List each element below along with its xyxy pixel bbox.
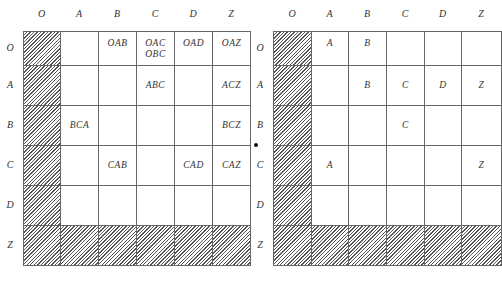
hatched-cell [273,31,312,66]
table-cell [311,65,349,106]
separator-dot [254,143,258,147]
table-cell [348,145,387,186]
table-cell [98,185,137,226]
row-header: O [4,42,16,53]
hatched-cell [23,185,61,226]
table-cell [348,105,387,146]
table-cell: CAD [174,145,213,186]
hatched-cell [348,225,387,266]
hatched-cell [273,145,312,186]
table-cell: OACOBC [136,31,175,66]
table-cell: CAZ [212,145,251,186]
row-header: A [4,79,16,90]
row-header: B [4,119,16,130]
hatched-cell [273,105,312,146]
table-cell: OAZ [212,31,251,66]
column-header: C [386,8,424,19]
table-cell: A [311,31,349,66]
column-header: O [273,8,311,19]
table-cell [386,145,425,186]
row-header: D [254,199,266,210]
table-cell [311,185,349,226]
table-cell [174,105,213,146]
table-cell [212,185,251,226]
table-cell: B [348,31,387,66]
row-header: D [4,199,16,210]
table-cell: Z [461,145,502,186]
table-cell [174,185,213,226]
table-cell: ACZ [212,65,251,106]
table-cell [60,185,99,226]
table-cell [98,105,137,146]
hatched-cell [273,225,312,266]
table-cell [136,105,175,146]
table-cell: C [386,105,425,146]
column-header: A [311,8,348,19]
table-cell [348,185,387,226]
table-cell [174,65,213,106]
table-cell [98,65,137,106]
table-cell [311,105,349,146]
row-header: Z [254,239,266,250]
table-cell: CAB [98,145,137,186]
hatched-cell [212,225,251,266]
hatched-cell [136,225,175,266]
table-cell [461,31,502,66]
table-cell: BCZ [212,105,251,146]
column-header: O [23,8,60,19]
column-header: C [136,8,174,19]
table-cell [136,145,175,186]
table-cell [136,185,175,226]
column-header: B [98,8,136,19]
hatched-cell [273,65,312,106]
row-header: C [254,159,266,170]
column-header: D [424,8,461,19]
table-cell: BCA [60,105,99,146]
table-cell: B [348,65,387,106]
row-header: B [254,119,266,130]
column-header: Z [461,8,501,19]
hatched-cell [273,185,312,226]
row-header: O [254,42,266,53]
hatched-cell [23,31,61,66]
hatched-cell [23,65,61,106]
table-cell: A [311,145,349,186]
table-cell [386,185,425,226]
table-cell [461,185,502,226]
table-cell [424,145,462,186]
table-cell: OAB [98,31,137,66]
table-cell: C [386,65,425,106]
table-cell [424,185,462,226]
hatched-cell [461,225,502,266]
table-cell [60,65,99,106]
table-cell [386,31,425,66]
column-header: Z [212,8,250,19]
row-header: A [254,79,266,90]
hatched-cell [23,145,61,186]
hatched-cell [386,225,425,266]
column-header: D [174,8,212,19]
hatched-cell [60,225,99,266]
hatched-cell [424,225,462,266]
hatched-cell [23,225,61,266]
table-cell: OAD [174,31,213,66]
table-cell: ABC [136,65,175,106]
column-header: B [348,8,386,19]
hatched-cell [98,225,137,266]
table-cell [60,145,99,186]
column-header: A [60,8,98,19]
table-cell [60,31,99,66]
table-cell [424,105,462,146]
table-cell [461,105,502,146]
hatched-cell [23,105,61,146]
hatched-cell [174,225,213,266]
table-cell: D [424,65,462,106]
table-cell [424,31,462,66]
row-header: Z [4,239,16,250]
row-header: C [4,159,16,170]
hatched-cell [311,225,349,266]
table-cell: Z [461,65,502,106]
